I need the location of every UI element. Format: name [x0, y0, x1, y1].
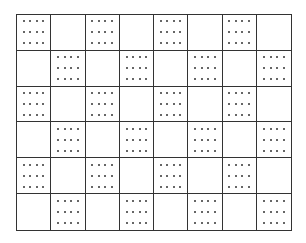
- dot-icon: [201, 139, 203, 141]
- dot-icon: [98, 103, 100, 105]
- dot-icon: [91, 114, 93, 116]
- dot-icon: [201, 211, 203, 213]
- dot-icon: [173, 42, 175, 44]
- dot-icon: [235, 92, 237, 94]
- dot-icon: [104, 20, 106, 22]
- dot-pattern: [193, 197, 218, 227]
- dot-icon: [126, 200, 128, 202]
- dot-pattern: [158, 17, 183, 47]
- blank-cell: [17, 122, 51, 158]
- dot-icon: [214, 200, 216, 202]
- dot-icon: [36, 42, 38, 44]
- dot-icon: [104, 42, 106, 44]
- dot-pattern: [21, 89, 46, 119]
- dot-icon: [132, 67, 134, 69]
- dot-icon: [23, 20, 25, 22]
- dot-icon: [166, 92, 168, 94]
- dot-icon: [23, 31, 25, 33]
- dot-icon: [263, 67, 265, 69]
- dot-icon: [235, 114, 237, 116]
- dot-icon: [139, 78, 141, 80]
- dot-icon: [270, 150, 272, 152]
- dot-icon: [207, 200, 209, 202]
- dot-icon: [104, 175, 106, 177]
- dot-icon: [98, 20, 100, 22]
- dot-pattern: [124, 53, 149, 83]
- dot-icon: [194, 56, 196, 58]
- dot-icon: [57, 56, 59, 58]
- dot-icon: [179, 103, 181, 105]
- dot-icon: [139, 128, 141, 130]
- dotted-cell: [120, 122, 154, 158]
- dotted-cell: [86, 15, 120, 51]
- dot-icon: [64, 211, 66, 213]
- dot-icon: [98, 42, 100, 44]
- dot-pattern: [193, 53, 218, 83]
- dot-icon: [57, 78, 59, 80]
- dot-icon: [228, 175, 230, 177]
- dot-icon: [126, 67, 128, 69]
- dotted-cell: [51, 194, 85, 230]
- dot-icon: [104, 103, 106, 105]
- dot-pattern: [21, 17, 46, 47]
- dot-icon: [160, 31, 162, 33]
- dotted-cell: [223, 158, 257, 194]
- dot-icon: [29, 164, 31, 166]
- dot-icon: [235, 186, 237, 188]
- dot-icon: [228, 92, 230, 94]
- dot-icon: [201, 128, 203, 130]
- dot-icon: [29, 175, 31, 177]
- dot-icon: [132, 150, 134, 152]
- dot-icon: [29, 103, 31, 105]
- dot-icon: [228, 164, 230, 166]
- dot-icon: [160, 103, 162, 105]
- dot-pattern: [262, 197, 287, 227]
- dot-icon: [36, 31, 38, 33]
- dot-icon: [166, 31, 168, 33]
- dot-icon: [70, 128, 72, 130]
- dot-icon: [194, 139, 196, 141]
- dot-icon: [173, 186, 175, 188]
- dot-icon: [36, 186, 38, 188]
- dot-icon: [98, 92, 100, 94]
- dot-icon: [235, 103, 237, 105]
- dot-icon: [111, 31, 113, 33]
- dot-icon: [214, 56, 216, 58]
- dot-icon: [270, 67, 272, 69]
- dot-icon: [283, 67, 285, 69]
- blank-cell: [223, 122, 257, 158]
- dotted-cell: [86, 87, 120, 123]
- dot-icon: [145, 78, 147, 80]
- dot-icon: [29, 31, 31, 33]
- dot-icon: [263, 150, 265, 152]
- dot-icon: [228, 20, 230, 22]
- dot-icon: [241, 186, 243, 188]
- dot-icon: [263, 56, 265, 58]
- dot-icon: [241, 20, 243, 22]
- dot-pattern: [124, 125, 149, 155]
- dot-icon: [57, 67, 59, 69]
- blank-cell: [154, 122, 188, 158]
- dot-icon: [111, 103, 113, 105]
- blank-cell: [154, 51, 188, 87]
- dot-icon: [235, 31, 237, 33]
- blank-cell: [51, 158, 85, 194]
- dot-icon: [139, 200, 141, 202]
- checkerboard-grid: [16, 14, 292, 231]
- dot-icon: [214, 78, 216, 80]
- dot-icon: [98, 31, 100, 33]
- dot-icon: [160, 164, 162, 166]
- dot-icon: [77, 128, 79, 130]
- dotted-cell: [17, 15, 51, 51]
- dot-icon: [248, 103, 250, 105]
- dot-icon: [166, 42, 168, 44]
- dot-icon: [104, 164, 106, 166]
- dot-icon: [179, 42, 181, 44]
- dot-icon: [179, 186, 181, 188]
- dot-icon: [91, 186, 93, 188]
- dot-icon: [214, 211, 216, 213]
- dot-pattern: [56, 125, 81, 155]
- dot-icon: [98, 175, 100, 177]
- dot-icon: [228, 114, 230, 116]
- dot-icon: [132, 56, 134, 58]
